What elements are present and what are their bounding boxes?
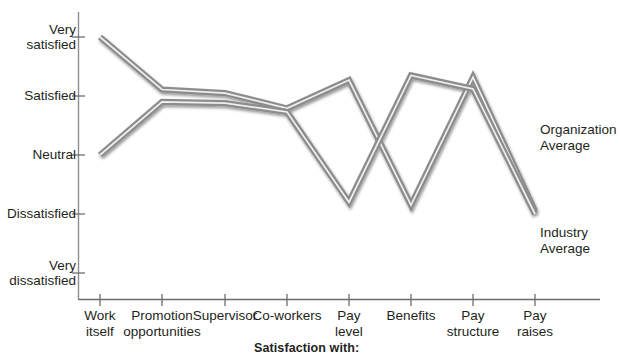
plot-area [0,0,620,359]
series-line-highlight-0 [100,37,535,211]
data-series-group [100,37,535,214]
x-axis-caption: Satisfaction with: [254,341,359,355]
x-tick-label-pay-raises: Pay raises [480,308,590,339]
series-label-industry-average: Industry Average [540,225,590,256]
axis-lines [79,12,601,300]
series-label-organization-average: Organization Average [540,122,617,153]
series-line-outer-0 [100,37,535,211]
satisfaction-line-chart: Very satisfied Satisfied Neutral Dissati… [0,0,620,359]
